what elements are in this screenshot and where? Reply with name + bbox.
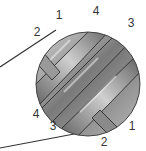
strand-label-top-1: 1: [56, 9, 63, 21]
strand-label-bottom-3: 3: [50, 120, 57, 132]
strand-label-top-2: 2: [34, 26, 41, 38]
strand-label-bottom-4: 4: [33, 108, 40, 120]
yarn-magnifier-diagram: [0, 0, 146, 151]
strand-label-bottom-1: 1: [129, 120, 136, 132]
strand-label-top-4: 4: [93, 5, 100, 17]
strand-label-bottom-2: 2: [101, 136, 108, 148]
strand-label-top-3: 3: [128, 17, 135, 29]
